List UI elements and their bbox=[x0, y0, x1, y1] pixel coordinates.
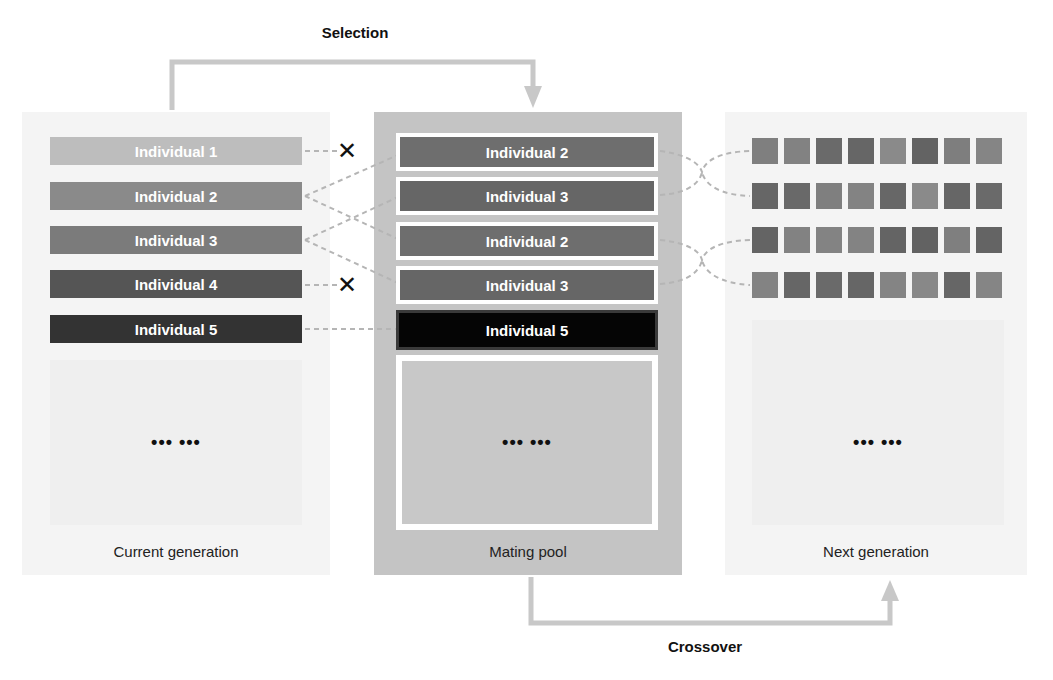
gene bbox=[976, 183, 1002, 209]
pool-individual-3: Individual 2 bbox=[396, 222, 658, 260]
pool-individual-label: Individual 5 bbox=[399, 313, 655, 347]
crossover-label: Crossover bbox=[645, 638, 765, 655]
gene bbox=[944, 272, 970, 298]
pool-individual-label: Individual 2 bbox=[400, 226, 654, 256]
gene bbox=[752, 272, 778, 298]
current-individual-1: Individual 1 bbox=[50, 137, 302, 165]
pool-individual-4: Individual 3 bbox=[396, 266, 658, 304]
gene bbox=[976, 138, 1002, 164]
pool-individual-5: Individual 5 bbox=[396, 310, 658, 350]
crossover-links bbox=[660, 151, 750, 285]
selection-label: Selection bbox=[295, 24, 415, 41]
ellipsis: ••• ••• bbox=[502, 432, 552, 453]
gene bbox=[880, 227, 906, 253]
pool-individual-label: Individual 2 bbox=[400, 137, 654, 167]
selection-links bbox=[305, 151, 398, 329]
ellipsis: ••• ••• bbox=[151, 432, 201, 453]
gene bbox=[784, 183, 810, 209]
gene bbox=[816, 183, 842, 209]
mating-pool-label: Mating pool bbox=[374, 543, 682, 560]
offspring-4 bbox=[752, 272, 1002, 298]
gene bbox=[976, 227, 1002, 253]
next-generation-label: Next generation bbox=[725, 543, 1027, 560]
offspring-2 bbox=[752, 183, 1002, 209]
gene bbox=[912, 272, 938, 298]
current-individual-5: Individual 5 bbox=[50, 315, 302, 343]
selection-arrow bbox=[172, 62, 542, 110]
gene bbox=[752, 227, 778, 253]
gene bbox=[752, 138, 778, 164]
gene bbox=[848, 227, 874, 253]
current-generation-label: Current generation bbox=[22, 543, 330, 560]
gene bbox=[944, 138, 970, 164]
current-individual-3: Individual 3 bbox=[50, 226, 302, 254]
offspring-3 bbox=[752, 227, 1002, 253]
rejected-x-icon: ✕ bbox=[337, 139, 357, 163]
gene bbox=[784, 227, 810, 253]
current-individual-4: Individual 4 bbox=[50, 270, 302, 298]
gene bbox=[848, 272, 874, 298]
gene bbox=[944, 183, 970, 209]
gene bbox=[912, 227, 938, 253]
current-generation-more: ••• ••• bbox=[50, 360, 302, 525]
gene bbox=[912, 138, 938, 164]
gene bbox=[880, 183, 906, 209]
ellipsis: ••• ••• bbox=[853, 432, 903, 453]
pool-individual-label: Individual 3 bbox=[400, 181, 654, 211]
gene bbox=[912, 183, 938, 209]
gene bbox=[880, 272, 906, 298]
crossover-arrow bbox=[531, 577, 899, 623]
pool-individual-1: Individual 2 bbox=[396, 133, 658, 171]
gene bbox=[752, 183, 778, 209]
gene bbox=[848, 183, 874, 209]
gene bbox=[816, 272, 842, 298]
current-individual-2: Individual 2 bbox=[50, 182, 302, 210]
offspring-1 bbox=[752, 138, 1002, 164]
gene bbox=[944, 227, 970, 253]
gene bbox=[976, 272, 1002, 298]
next-generation-more: ••• ••• bbox=[752, 320, 1004, 525]
pool-individual-2: Individual 3 bbox=[396, 177, 658, 215]
gene bbox=[784, 272, 810, 298]
rejected-x-icon: ✕ bbox=[337, 273, 357, 297]
gene bbox=[816, 227, 842, 253]
gene bbox=[880, 138, 906, 164]
gene bbox=[784, 138, 810, 164]
mating-pool-more: ••• ••• bbox=[396, 355, 658, 530]
gene bbox=[816, 138, 842, 164]
gene bbox=[848, 138, 874, 164]
pool-individual-label: Individual 3 bbox=[400, 270, 654, 300]
